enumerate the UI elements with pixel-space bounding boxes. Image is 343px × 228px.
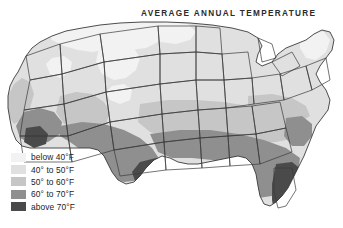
legend-item-60-70: 60° to 70°F: [11, 188, 107, 200]
temperature-map-figure: AVERAGE ANNUAL TEMPERATURE: [0, 0, 343, 228]
legend-label-above-70: above 70°F: [31, 202, 75, 212]
legend-label-below-40: below 40°F: [31, 152, 74, 162]
legend-item-40-50: 40° to 50°F: [11, 163, 107, 175]
legend-swatch-above-70: [11, 202, 26, 211]
map-legend: below 40°F 40° to 50°F 50° to 60°F 60° t…: [11, 151, 107, 213]
lake-superior-outline: [258, 38, 276, 62]
legend-label-60-70: 60° to 70°F: [31, 189, 74, 199]
legend-swatch-60-70: [11, 190, 26, 199]
legend-swatch-40-50: [11, 165, 26, 174]
band-above-70-south-florida: [272, 162, 304, 216]
legend-item-above-70: above 70°F: [11, 201, 107, 213]
legend-swatch-50-60: [11, 177, 26, 186]
legend-label-50-60: 50° to 60°F: [31, 177, 74, 187]
legend-item-below-40: below 40°F: [11, 151, 107, 163]
legend-item-50-60: 50° to 60°F: [11, 176, 107, 188]
legend-label-40-50: 40° to 50°F: [31, 165, 74, 175]
legend-swatch-below-40: [11, 153, 26, 162]
